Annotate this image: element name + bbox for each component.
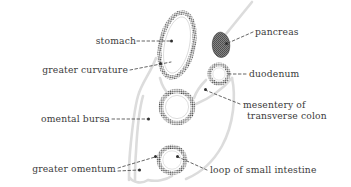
- anchor-loop-small-intestine: [176, 155, 179, 158]
- lower-apron-edge: [148, 176, 172, 181]
- small-intestine-ring: [159, 147, 185, 173]
- label-omental-bursa: omental bursa: [18, 113, 110, 124]
- anchor-greater-omentum-b: [138, 169, 141, 172]
- label-duodenum: duodenum: [249, 68, 299, 79]
- stomach-outline: [154, 9, 200, 80]
- label-loop-of-small-intestine: loop of small intestine: [210, 164, 317, 175]
- anchor-stomach: [170, 40, 173, 43]
- anchor-omental-bursa: [147, 118, 150, 121]
- label-mesentery-line2: transverse colon: [243, 110, 327, 121]
- anchor-mesentery: [204, 88, 207, 91]
- label-stomach: stomach: [46, 35, 136, 46]
- label-pancreas: pancreas: [255, 26, 299, 37]
- anchor-pancreas: [225, 42, 228, 45]
- greater-omentum-fold: [130, 178, 148, 182]
- anchor-greater-curvature: [159, 62, 162, 65]
- label-mesentery-transverse-colon: mesentery of transverse colon: [243, 99, 327, 121]
- upper-right-membrane: [226, 2, 252, 34]
- anchor-greater-omentum-a: [154, 155, 157, 158]
- label-greater-curvature: greater curvature: [10, 64, 128, 75]
- label-mesentery-line1: mesentery of: [243, 99, 306, 110]
- leader-pancreas: [228, 32, 253, 43]
- anatomical-diagram: stomach greater curvature omental bursa …: [0, 0, 351, 187]
- duodenum-ring: [209, 64, 228, 83]
- label-greater-omentum: greater omentum: [8, 163, 116, 174]
- transverse-colon-ring: [161, 91, 193, 123]
